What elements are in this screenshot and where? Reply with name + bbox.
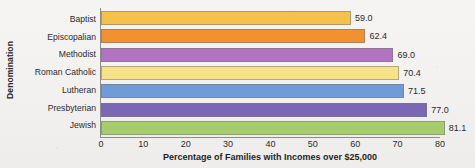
bar-row: 59.0 bbox=[101, 11, 440, 25]
category-label-lutheran: Lutheran bbox=[18, 82, 98, 100]
bar-row: 77.0 bbox=[101, 103, 440, 117]
bar-methodist bbox=[101, 48, 393, 62]
x-tick-80: 80 bbox=[435, 139, 445, 149]
x-axis-tick-labels: 01020304050607080 bbox=[100, 139, 440, 151]
category-label-roman-catholic: Roman Catholic bbox=[18, 64, 98, 82]
bar-value-label: 70.4 bbox=[399, 66, 421, 80]
x-tick-20: 20 bbox=[181, 139, 191, 149]
bar-episcopalian bbox=[101, 29, 365, 43]
bar-row: 71.5 bbox=[101, 84, 440, 98]
bar-value-label: 69.0 bbox=[393, 48, 415, 62]
x-tick-60: 60 bbox=[350, 139, 360, 149]
x-tick-30: 30 bbox=[223, 139, 233, 149]
bar-jewish bbox=[101, 121, 445, 135]
x-tick-40: 40 bbox=[265, 139, 275, 149]
x-axis-title: Percentage of Families with Incomes over… bbox=[100, 152, 440, 162]
bar-row: 81.1 bbox=[101, 121, 440, 135]
y-axis-title-text: Denomination bbox=[5, 41, 15, 99]
bar-series: 59.062.469.070.471.577.081.1 bbox=[101, 11, 440, 135]
bar-presbyterian bbox=[101, 103, 427, 117]
x-tick-70: 70 bbox=[393, 139, 403, 149]
bar-value-label: 77.0 bbox=[427, 103, 449, 117]
bar-row: 69.0 bbox=[101, 48, 440, 62]
bar-roman-catholic bbox=[101, 66, 399, 80]
x-axis-line bbox=[100, 137, 440, 138]
x-tick-50: 50 bbox=[308, 139, 318, 149]
category-label-methodist: Methodist bbox=[18, 46, 98, 64]
y-axis-title: Denomination bbox=[2, 0, 18, 140]
x-tick-10: 10 bbox=[138, 139, 148, 149]
bar-row: 62.4 bbox=[101, 29, 440, 43]
bar-baptist bbox=[101, 11, 351, 25]
bar-row: 70.4 bbox=[101, 66, 440, 80]
bar-value-label: 71.5 bbox=[404, 84, 426, 98]
bar-value-label: 81.1 bbox=[445, 121, 467, 135]
bar-chart: Denomination Baptist Episcopalian Method… bbox=[0, 0, 475, 168]
category-label-baptist: Baptist bbox=[18, 11, 98, 29]
bar-value-label: 59.0 bbox=[351, 11, 373, 25]
category-label-presbyterian: Presbyterian bbox=[18, 100, 98, 118]
category-label-column: Baptist Episcopalian Methodist Roman Cat… bbox=[18, 11, 98, 135]
plot-area: 59.062.469.070.471.577.081.1 bbox=[100, 8, 440, 138]
x-tick-0: 0 bbox=[98, 139, 103, 149]
bar-lutheran bbox=[101, 84, 404, 98]
category-label-episcopalian: Episcopalian bbox=[18, 29, 98, 47]
bar-value-label: 62.4 bbox=[365, 29, 387, 43]
category-label-jewish: Jewish bbox=[18, 117, 98, 135]
